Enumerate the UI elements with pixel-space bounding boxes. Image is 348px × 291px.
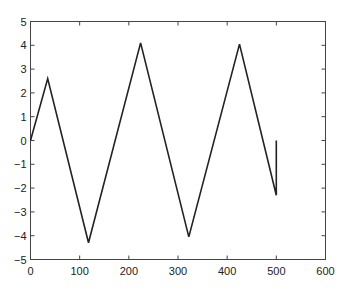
x-tick-label: 100	[70, 265, 88, 277]
x-tick-label: 300	[169, 265, 187, 277]
y-tick-label: −5	[14, 254, 27, 266]
line-chart: 0100200300400500600−5−4−3−2−1012345	[0, 0, 348, 291]
x-tick-label: 0	[27, 265, 33, 277]
y-tick-label: 5	[20, 16, 26, 28]
y-tick-label: 3	[20, 63, 26, 75]
y-tick-label: 2	[20, 87, 26, 99]
data-series-line	[31, 43, 277, 243]
y-tick-label: −2	[14, 182, 27, 194]
x-tick-label: 600	[316, 265, 334, 277]
x-tick-label: 200	[120, 265, 138, 277]
y-tick-label: −3	[14, 206, 27, 218]
axis-ticks	[31, 22, 326, 260]
y-tick-label: 1	[20, 111, 26, 123]
x-tick-label: 400	[218, 265, 236, 277]
x-tick-label: 500	[267, 265, 285, 277]
axis-tick-labels: 0100200300400500600−5−4−3−2−1012345	[14, 16, 335, 277]
y-tick-label: −4	[14, 230, 27, 242]
axes-frame	[31, 22, 326, 260]
y-tick-label: 4	[20, 39, 26, 51]
y-tick-label: −1	[14, 158, 27, 170]
y-tick-label: 0	[20, 135, 26, 147]
